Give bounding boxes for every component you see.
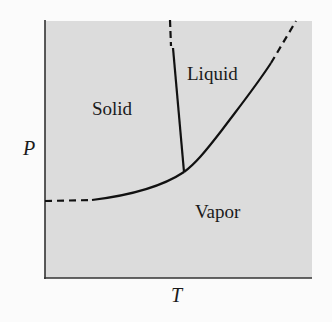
region-label-liquid: Liquid: [187, 63, 238, 84]
melting-curve-dashed: [170, 20, 171, 46]
y-axis-label: P: [22, 137, 35, 159]
phase-diagram: Solid Liquid Vapor P T: [0, 0, 332, 322]
region-label-vapor: Vapor: [195, 201, 241, 222]
x-axis-label: T: [171, 284, 184, 306]
region-label-solid: Solid: [92, 98, 133, 119]
